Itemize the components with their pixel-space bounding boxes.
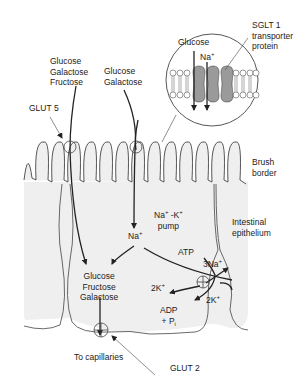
intestinal-sugar-absorption-diagram: SGLT 1 transporter protein Glucose Na+ G… <box>0 0 303 384</box>
label-brush-border: Brush border <box>252 157 277 178</box>
label-cell-sugars: Glucose Fructose Galactose <box>80 271 118 303</box>
label-inset-glucose: Glucose <box>178 37 209 48</box>
label-inset-na: Na+ <box>200 52 214 63</box>
label-mid-sugars: Glucose Galactose <box>104 66 142 87</box>
diagram-graphics <box>0 0 303 384</box>
label-3na: 3Na+ <box>203 259 222 270</box>
label-2k-right: 2K+ <box>206 295 220 306</box>
sglt1-inset <box>166 34 259 126</box>
label-2k-left: 2K+ <box>151 283 165 294</box>
label-left-sugars: Glucose Galactose Fructose <box>50 56 88 88</box>
label-intestinal-epithelium: Intestinal epithelium <box>232 217 271 238</box>
label-sglt1: SGLT 1 transporter protein <box>252 20 293 52</box>
label-glut5: GLUT 5 <box>29 103 59 114</box>
label-na-k-pump: Na+ -K+ pump <box>154 210 183 231</box>
label-atp: ATP <box>178 247 194 258</box>
label-cell-na: Na+ <box>128 231 142 242</box>
label-to-capillaries: To capillaries <box>74 352 123 363</box>
label-adp-pi: ADP + Pi <box>160 305 177 326</box>
label-glut2: GLUT 2 <box>170 363 200 374</box>
